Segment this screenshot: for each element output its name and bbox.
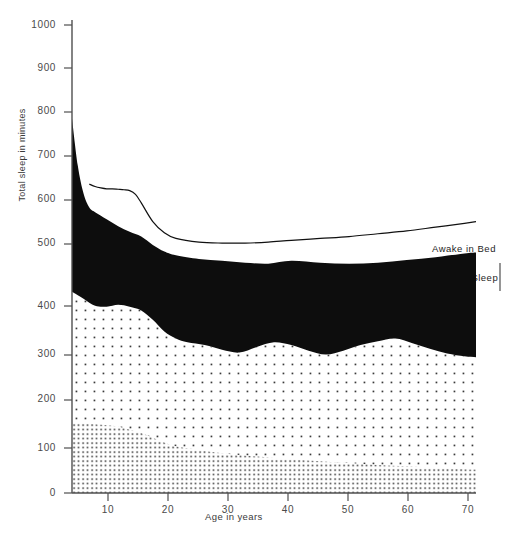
y-tick-marks (64, 25, 72, 493)
plot-area (0, 0, 519, 543)
x-tick-marks (108, 493, 468, 501)
awake-in-bed-curve (89, 184, 476, 243)
sleep-stages-chart: Total sleep in minutes Age in years 1000… (0, 0, 519, 543)
